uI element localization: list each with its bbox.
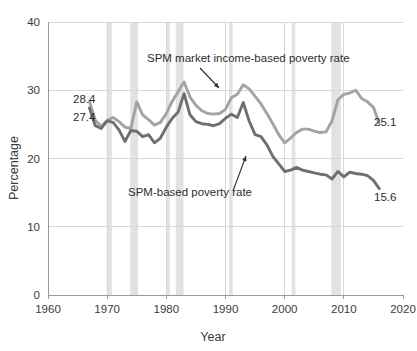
series-annotation-label: SPM market income-based poverty rate	[147, 52, 350, 64]
series-annotation-label: SPM-based poverty rate	[128, 186, 252, 198]
x-axis-tick-label: 1960	[35, 303, 61, 315]
x-axis-title: Year	[200, 330, 225, 344]
x-axis-tick-label: 1980	[154, 303, 180, 315]
y-axis-tick-label: 40	[27, 16, 40, 28]
series-value-label: 28.4	[73, 93, 96, 105]
x-axis-tick-label: 1970	[94, 303, 120, 315]
series-value-label: 27.4	[73, 111, 96, 123]
poverty-rate-chart: 0102030401960197019801990200020102020 SP…	[0, 0, 417, 351]
x-axis-tick-label: 2000	[272, 303, 298, 315]
x-axis-tick-label: 2010	[331, 303, 357, 315]
annotations-group: SPM market income-based poverty rateSPM-…	[128, 52, 350, 198]
y-axis-tick-label: 0	[34, 289, 40, 301]
series-value-label: 25.1	[374, 116, 396, 128]
chart-canvas: 0102030401960197019801990200020102020 SP…	[0, 0, 417, 351]
y-axis-title: Percentage	[7, 136, 21, 200]
series-value-label: 15.6	[374, 191, 396, 203]
y-axis-tick-label: 30	[27, 84, 40, 96]
y-axis-tick-label: 20	[27, 153, 40, 165]
y-axis-tick-label: 10	[27, 221, 40, 233]
x-axis-tick-label: 2020	[390, 303, 416, 315]
x-axis-tick-label: 1990	[213, 303, 239, 315]
